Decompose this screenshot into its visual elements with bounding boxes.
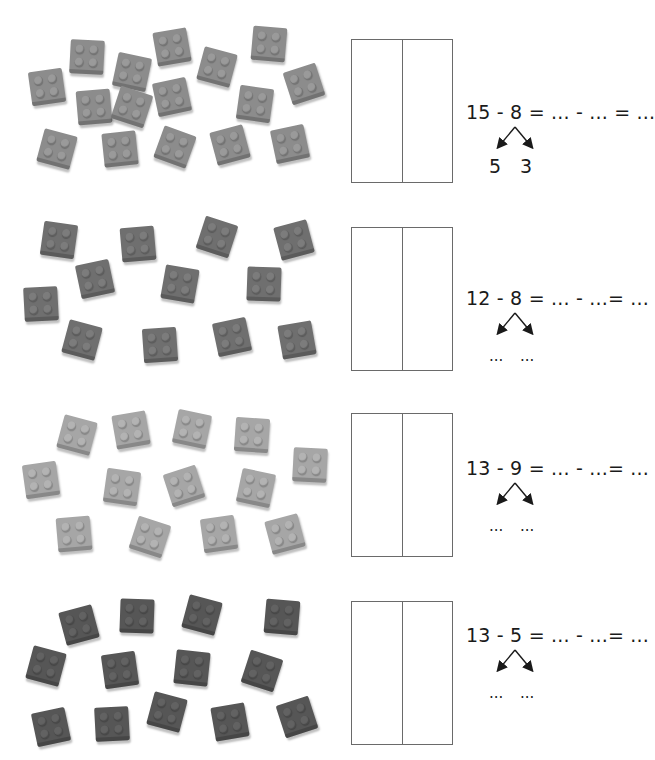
lego-brick-icon bbox=[56, 414, 98, 456]
stud-icon bbox=[293, 86, 304, 97]
stud-icon bbox=[148, 346, 158, 356]
lego-brick-icon bbox=[234, 417, 270, 453]
stud-icon bbox=[265, 660, 276, 671]
lego-brick-icon bbox=[264, 599, 301, 636]
brick-group bbox=[15, 15, 335, 185]
stud-icon bbox=[279, 229, 290, 240]
split-arrows-icon bbox=[493, 125, 537, 151]
stud-icon bbox=[158, 86, 169, 97]
stud-icon bbox=[78, 611, 89, 622]
stud-icon bbox=[173, 488, 184, 499]
lego-brick-icon bbox=[119, 598, 154, 633]
answer-box-left-cell[interactable] bbox=[352, 602, 403, 744]
stud-icon bbox=[60, 138, 71, 149]
stud-icon bbox=[41, 467, 51, 477]
stud-icon bbox=[122, 669, 132, 679]
stud-icon bbox=[306, 82, 317, 93]
stud-icon bbox=[139, 604, 148, 613]
stud-icon bbox=[37, 716, 48, 727]
lego-brick-icon bbox=[152, 27, 191, 66]
stud-icon bbox=[122, 149, 132, 159]
lego-brick-icon bbox=[292, 447, 328, 483]
stud-icon bbox=[252, 272, 261, 281]
lego-brick-icon bbox=[264, 513, 306, 555]
stud-icon bbox=[49, 655, 60, 666]
answer-box[interactable] bbox=[351, 39, 453, 183]
stud-icon bbox=[292, 143, 303, 154]
stud-icon bbox=[124, 475, 134, 485]
brick-group bbox=[15, 585, 335, 755]
lego-brick-icon bbox=[181, 594, 223, 636]
split-part-right: ... bbox=[520, 517, 534, 535]
stud-icon bbox=[312, 453, 321, 462]
stud-icon bbox=[207, 535, 217, 545]
stud-icon bbox=[139, 617, 148, 626]
answer-box-right-cell[interactable] bbox=[403, 40, 453, 182]
stud-icon bbox=[35, 651, 46, 662]
stud-icon bbox=[215, 134, 226, 145]
stud-icon bbox=[218, 724, 228, 734]
lego-brick-icon bbox=[23, 286, 59, 322]
answer-box-left-cell[interactable] bbox=[352, 40, 403, 182]
stud-icon bbox=[240, 422, 250, 432]
equation: 15 - 8 = ... - ... = ... bbox=[466, 101, 655, 123]
stud-icon bbox=[120, 657, 130, 667]
stud-icon bbox=[242, 103, 252, 113]
stud-icon bbox=[182, 273, 192, 283]
answer-box[interactable] bbox=[351, 601, 453, 745]
lego-brick-icon bbox=[251, 26, 288, 63]
stud-icon bbox=[178, 136, 190, 148]
lego-brick-icon bbox=[152, 77, 192, 117]
stud-icon bbox=[43, 304, 52, 313]
lego-brick-icon bbox=[163, 465, 206, 508]
stud-icon bbox=[111, 473, 121, 483]
stud-icon bbox=[221, 533, 231, 543]
stud-icon bbox=[132, 73, 143, 84]
stud-icon bbox=[302, 69, 313, 80]
split-part-left: ... bbox=[489, 347, 503, 365]
stud-icon bbox=[193, 669, 203, 679]
lego-brick-icon bbox=[120, 226, 157, 263]
stud-icon bbox=[289, 74, 300, 85]
stud-icon bbox=[85, 329, 96, 340]
split-part-right: ... bbox=[520, 684, 534, 702]
answer-box-left-cell[interactable] bbox=[352, 228, 403, 370]
stud-icon bbox=[66, 420, 77, 431]
stud-icon bbox=[161, 332, 171, 342]
stud-icon bbox=[122, 92, 133, 103]
stud-icon bbox=[33, 76, 43, 86]
answer-box-left-cell[interactable] bbox=[352, 414, 403, 556]
stud-icon bbox=[74, 57, 83, 66]
equation: 13 - 9 = ... - ...= ... bbox=[466, 457, 649, 479]
lego-brick-icon bbox=[200, 515, 238, 553]
answer-box-right-cell[interactable] bbox=[403, 602, 453, 744]
stud-icon bbox=[283, 242, 294, 253]
stud-icon bbox=[160, 144, 172, 156]
stud-icon bbox=[194, 656, 204, 666]
stud-icon bbox=[284, 605, 294, 615]
stud-icon bbox=[135, 96, 146, 107]
stud-icon bbox=[247, 668, 258, 679]
stud-icon bbox=[297, 465, 306, 474]
answer-box[interactable] bbox=[351, 227, 453, 371]
stud-icon bbox=[133, 429, 143, 439]
split-arrows-icon bbox=[493, 648, 537, 674]
lego-brick-icon bbox=[246, 266, 281, 301]
answer-box[interactable] bbox=[351, 413, 453, 557]
stud-icon bbox=[49, 86, 59, 96]
stud-icon bbox=[257, 31, 267, 41]
stud-icon bbox=[298, 452, 307, 461]
stud-icon bbox=[261, 673, 272, 684]
lego-brick-icon bbox=[112, 52, 152, 92]
stud-icon bbox=[269, 617, 279, 627]
stud-icon bbox=[293, 226, 304, 237]
answer-box-right-cell[interactable] bbox=[403, 414, 453, 556]
stud-icon bbox=[56, 150, 67, 161]
answer-box-right-cell[interactable] bbox=[403, 228, 453, 370]
stud-icon bbox=[270, 523, 281, 534]
stud-icon bbox=[283, 618, 293, 628]
stud-icon bbox=[62, 535, 72, 545]
split-part-right: 3 bbox=[520, 155, 532, 177]
stud-icon bbox=[311, 466, 320, 475]
stud-icon bbox=[126, 245, 136, 255]
